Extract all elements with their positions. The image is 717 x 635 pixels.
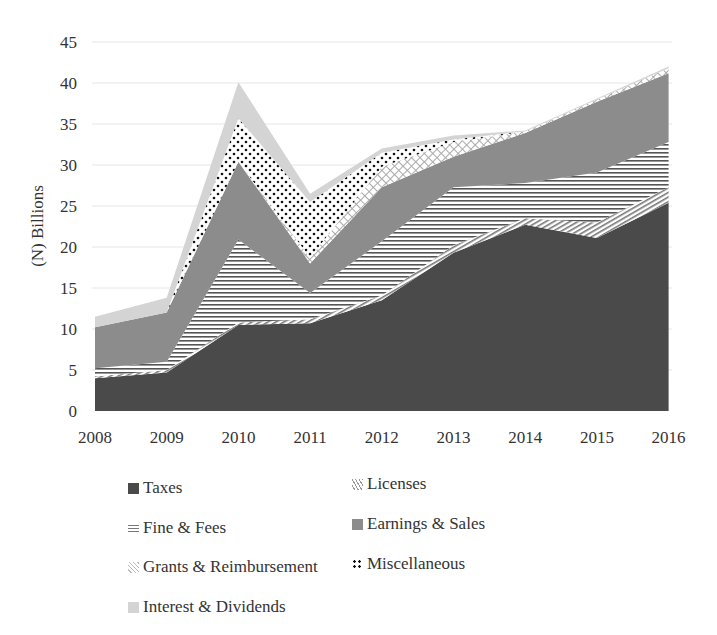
y-tick-label: 35 (60, 115, 77, 134)
swatch-interest-icon (128, 602, 139, 613)
y-tick-label: 10 (60, 320, 77, 339)
legend-label: Licenses (367, 474, 426, 494)
swatch-taxes-icon (128, 483, 139, 494)
x-tick-label: 2010 (221, 428, 255, 447)
legend-label: Taxes (143, 478, 182, 498)
x-tick-label: 2016 (652, 428, 686, 447)
legend-label: Fine & Fees (143, 518, 226, 538)
y-tick-label: 0 (69, 402, 78, 421)
legend-item-interest-dividends: Interest & Dividends (128, 597, 286, 617)
legend-item-grants: Grants & Reimbursement (128, 557, 318, 577)
swatch-licenses-icon (352, 479, 363, 490)
x-tick-label: 2011 (293, 428, 326, 447)
x-tick-label: 2012 (365, 428, 399, 447)
y-tick-label: 15 (60, 279, 77, 298)
area-layers (95, 67, 669, 411)
legend-label: Interest & Dividends (143, 597, 286, 617)
legend-label: Earnings & Sales (367, 514, 485, 534)
x-axis-ticks: 200820092010201120122013201420152016 (78, 428, 686, 447)
stacked-area-chart: 051015202530354045 200820092010201120122… (0, 0, 717, 465)
swatch-fine-fees-icon (128, 523, 139, 534)
legend-item-fine-fees: Fine & Fees (128, 518, 226, 538)
swatch-grants-icon (128, 562, 139, 573)
swatch-misc-icon (352, 559, 363, 570)
y-tick-label: 30 (60, 156, 77, 175)
legend-item-taxes: Taxes (128, 478, 182, 498)
y-axis-ticks: 051015202530354045 (60, 33, 77, 421)
y-tick-label: 40 (60, 74, 77, 93)
x-tick-label: 2015 (580, 428, 614, 447)
y-tick-label: 45 (60, 33, 77, 52)
x-tick-label: 2009 (150, 428, 184, 447)
y-tick-label: 20 (60, 238, 77, 257)
x-tick-label: 2013 (437, 428, 471, 447)
y-axis-title: (N) Billions (28, 185, 47, 267)
legend-label: Miscellaneous (367, 554, 465, 574)
x-tick-label: 2014 (508, 428, 543, 447)
y-tick-label: 5 (69, 361, 78, 380)
legend-item-miscellaneous: Miscellaneous (352, 554, 465, 574)
legend-label: Grants & Reimbursement (143, 557, 318, 577)
swatch-earnings-icon (352, 519, 363, 530)
x-tick-label: 2008 (78, 428, 112, 447)
legend-item-earnings-sales: Earnings & Sales (352, 514, 485, 534)
y-tick-label: 25 (60, 197, 77, 216)
legend-item-licenses: Licenses (352, 474, 426, 494)
